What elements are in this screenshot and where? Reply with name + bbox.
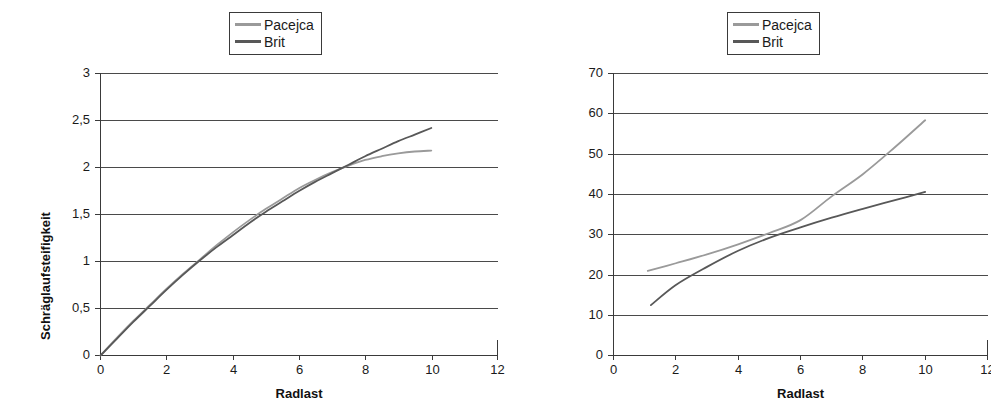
x-tick-label: 4 (724, 362, 753, 377)
y-tick-label: 60 (569, 105, 603, 120)
y-tick-label: 0 (569, 347, 603, 362)
plot-area-right (491, 0, 991, 420)
y-tick-label: 1 (62, 253, 90, 268)
series-line-pacejca-right (648, 120, 925, 271)
y-tick-label: 50 (569, 146, 603, 161)
x-tick-label: 10 (911, 362, 940, 377)
y-axis-title-left: Schräglaufsteifigkeit (38, 212, 53, 340)
y-tick-label: 10 (569, 307, 603, 322)
axis-lines-right (613, 73, 988, 356)
y-tick-label: 40 (569, 186, 603, 201)
y-tick-label: 30 (569, 226, 603, 241)
x-tick-label: 2 (661, 362, 690, 377)
y-tick-label: 0,5 (56, 300, 90, 315)
gridlines-right (613, 74, 988, 316)
x-tick-label: 6 (285, 362, 314, 377)
x-tick-label: 0 (599, 362, 628, 377)
y-tick-label: 2 (62, 159, 90, 174)
series-line-brit-left (101, 128, 432, 355)
y-ticks-left (95, 74, 100, 356)
x-axis-title-right: Radlast (613, 386, 988, 401)
x-tick-label: 12 (973, 362, 991, 377)
x-tick-label: 8 (848, 362, 877, 377)
x-tick-label: 8 (351, 362, 380, 377)
y-tick-label: 20 (569, 267, 603, 282)
x-tick-label: 2 (152, 362, 181, 377)
y-tick-label: 3 (62, 65, 90, 80)
x-tick-label: 0 (86, 362, 115, 377)
x-tick-label: 6 (786, 362, 815, 377)
chart-panel-left: Pacejca Brit (0, 0, 500, 420)
series-line-brit-right (651, 192, 925, 305)
x-axis-title-left: Radlast (100, 386, 498, 401)
y-tick-label: 70 (569, 65, 603, 80)
x-tick-label: 4 (219, 362, 248, 377)
y-ticks-right (608, 74, 613, 356)
series-line-pacejca-left (101, 151, 432, 356)
x-tick-label: 10 (418, 362, 447, 377)
y-tick-label: 0 (62, 347, 90, 362)
y-tick-label: 1,5 (56, 206, 90, 221)
y-tick-label: 2,5 (56, 112, 90, 127)
chart-panel-right: Pacejca Brit (491, 0, 991, 420)
figure-root: Pacejca Brit (0, 0, 991, 420)
